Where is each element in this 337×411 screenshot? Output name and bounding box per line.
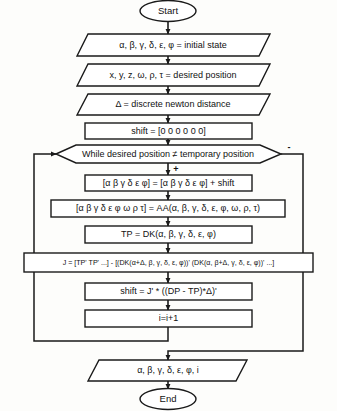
node-end: End bbox=[140, 389, 196, 410]
node-desired-position: x, y, z, ω, ρ, τ = desired position bbox=[77, 64, 270, 86]
flowchart-svg: Start α, β, γ, δ, ε, φ = initial state x… bbox=[0, 0, 337, 411]
start-label: Start bbox=[158, 5, 178, 16]
jacobian-label: J = [TP' TP' ...] - [(DK(α+Δ, β, γ, δ, ε… bbox=[63, 259, 275, 267]
node-newton-distance: Δ = discrete newton distance bbox=[77, 94, 270, 115]
output-label: α, β, γ, δ, ε, φ, i bbox=[137, 365, 199, 375]
angles-update-label: [α β γ δ ε φ] = [α β γ δ ε φ] + shift bbox=[103, 178, 235, 188]
node-start: Start bbox=[140, 1, 196, 22]
tp-call-label: TP = DK(α, β, γ, δ, ε, φ) bbox=[121, 229, 216, 239]
node-increment: i=i+1 bbox=[85, 310, 252, 327]
increment-label: i=i+1 bbox=[159, 313, 179, 323]
desired-position-label: x, y, z, ω, ρ, τ = desired position bbox=[110, 70, 237, 80]
node-jacobian: J = [TP' TP' ...] - [(DK(α+Δ, β, γ, δ, ε… bbox=[24, 253, 313, 272]
shift-init-label: shift = [0 0 0 0 0 0] bbox=[131, 126, 205, 136]
aa-call-label: [α β γ δ ε φ ω ρ τ] = AA(α, β, γ, δ, ε, … bbox=[76, 203, 260, 213]
node-shift-init: shift = [0 0 0 0 0 0] bbox=[85, 123, 252, 139]
while-condition-label: While desired position ≠ temporary posit… bbox=[82, 149, 254, 159]
branch-label-false: - bbox=[288, 142, 291, 152]
node-initial-state: α, β, γ, δ, ε, φ = initial state bbox=[77, 34, 270, 56]
newton-distance-label: Δ = discrete newton distance bbox=[116, 99, 231, 109]
node-aa-call: [α β γ δ ε φ ω ρ τ] = AA(α, β, γ, δ, ε, … bbox=[51, 200, 285, 217]
shift-update-label: shift = J' * ((DP - TP)*Δ)' bbox=[120, 286, 217, 296]
node-output: α, β, γ, δ, ε, φ, i bbox=[88, 360, 247, 381]
initial-state-label: α, β, γ, δ, ε, φ = initial state bbox=[119, 40, 227, 50]
node-shift-update: shift = J' * ((DP - TP)*Δ)' bbox=[85, 283, 252, 300]
node-while-condition: While desired position ≠ temporary posit… bbox=[56, 145, 281, 163]
branch-label-true: + bbox=[173, 164, 178, 174]
node-tp-call: TP = DK(α, β, γ, δ, ε, φ) bbox=[85, 226, 252, 243]
end-label: End bbox=[160, 393, 177, 404]
node-angles-update: [α β γ δ ε φ] = [α β γ δ ε φ] + shift bbox=[85, 175, 252, 191]
flowchart-canvas: Start α, β, γ, δ, ε, φ = initial state x… bbox=[0, 0, 337, 411]
